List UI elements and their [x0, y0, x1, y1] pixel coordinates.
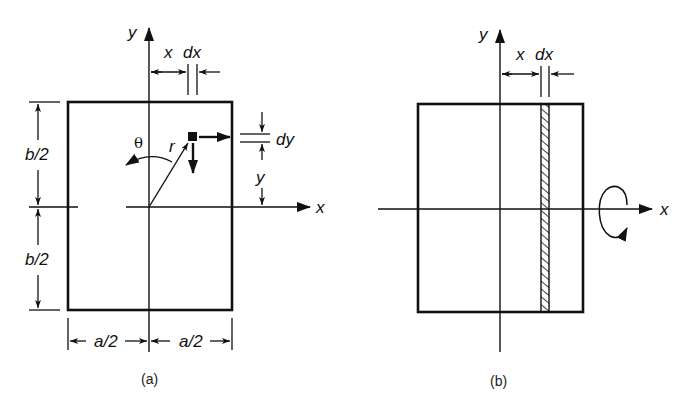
moment-rotation-arrow [599, 187, 627, 238]
panel-a: y x b/2 b/2 a/2 a/2 [25, 23, 325, 387]
dim-label-b-half-lower: b/2 [25, 250, 49, 269]
dim-label-x-b: x [515, 45, 525, 64]
dim-label-b-half-upper: b/2 [25, 145, 49, 164]
area-element-square [188, 132, 197, 141]
figure-canvas: y x b/2 b/2 a/2 a/2 [0, 0, 691, 410]
dim-label-a-half-right: a/2 [179, 332, 203, 351]
theta-label: θ [134, 134, 143, 152]
caption-a: (a) [141, 371, 158, 387]
y-axis-label-b: y [478, 25, 489, 44]
hatched-strip [541, 104, 549, 312]
dim-label-dx-a: dx [183, 43, 201, 62]
x-axis-label-b: x [659, 200, 669, 219]
dimension-b-left: b/2 b/2 [25, 102, 78, 310]
dim-label-dy: dy [276, 130, 295, 149]
dim-label-a-half-left: a/2 [94, 332, 118, 351]
caption-b: (b) [490, 373, 507, 389]
dim-label-y-a: y [255, 168, 266, 187]
dim-label-dx-b: dx [535, 45, 553, 64]
dim-label-x-a: x [163, 43, 173, 62]
dimension-x-dx-top-b: x dx [502, 45, 574, 97]
x-axis-label-a: x [315, 198, 325, 217]
dimension-a-bottom: a/2 a/2 [68, 318, 232, 351]
dimension-dy-y-right: dy y [240, 112, 295, 205]
radius-label: r [169, 137, 176, 156]
panel-b: y x x dx (b) [378, 25, 669, 389]
y-axis-label-a: y [127, 23, 138, 42]
dimension-x-dx-top-a: x dx [151, 43, 220, 95]
